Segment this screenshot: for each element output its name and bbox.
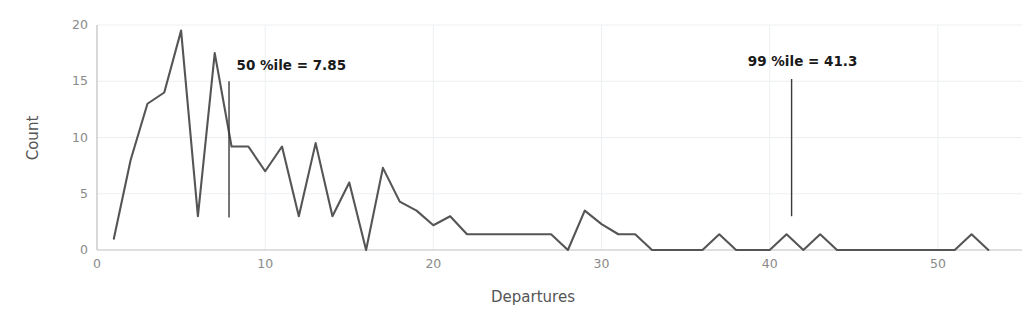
y-tick-label: 15	[72, 73, 88, 88]
y-tick-label: 10	[72, 130, 88, 145]
x-tick-label: 20	[425, 256, 441, 271]
percentile-label-p99: 99 %ile = 41.3	[748, 53, 857, 69]
x-tick-labels: 01020304050	[93, 256, 946, 271]
x-tick-label: 10	[257, 256, 273, 271]
x-tick-label: 40	[762, 256, 778, 271]
x-tick-label: 0	[93, 256, 101, 271]
chart-page: 01020304050 05101520 50 %ile = 7.8599 %i…	[0, 0, 1032, 328]
y-tick-label: 20	[72, 17, 88, 32]
percentile-label-p50: 50 %ile = 7.85	[237, 57, 346, 73]
departures-count-line-chart: 01020304050 05101520 50 %ile = 7.8599 %i…	[0, 0, 1032, 328]
x-axis-title: Departures	[491, 288, 575, 306]
x-tick-label: 50	[930, 256, 946, 271]
percentile-annotations: 50 %ile = 7.8599 %ile = 41.3	[229, 53, 857, 218]
y-tick-labels: 05101520	[72, 17, 88, 257]
y-axis-title: Count	[24, 116, 42, 161]
y-tick-label: 0	[80, 242, 88, 257]
y-tick-label: 5	[80, 186, 88, 201]
x-tick-label: 30	[594, 256, 610, 271]
